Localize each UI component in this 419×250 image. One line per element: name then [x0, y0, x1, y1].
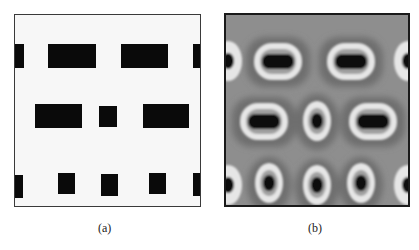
mask-feature — [99, 106, 117, 127]
intensity-image — [226, 15, 408, 205]
mask-feature — [48, 44, 96, 68]
mask-feature — [35, 104, 82, 128]
mask-feature — [15, 44, 24, 68]
mask-feature — [121, 44, 168, 68]
mask-feature — [193, 44, 201, 68]
mask-feature — [149, 173, 166, 194]
mask-feature — [15, 175, 23, 198]
mask-feature — [193, 173, 201, 196]
mask-feature — [58, 173, 75, 194]
caption-b: (b) — [308, 221, 322, 236]
panel-a-mask — [14, 14, 201, 207]
mask-feature — [143, 104, 189, 128]
caption-a: (a) — [98, 221, 111, 236]
mask-feature — [101, 174, 118, 196]
panel-b-intensity — [224, 13, 410, 207]
